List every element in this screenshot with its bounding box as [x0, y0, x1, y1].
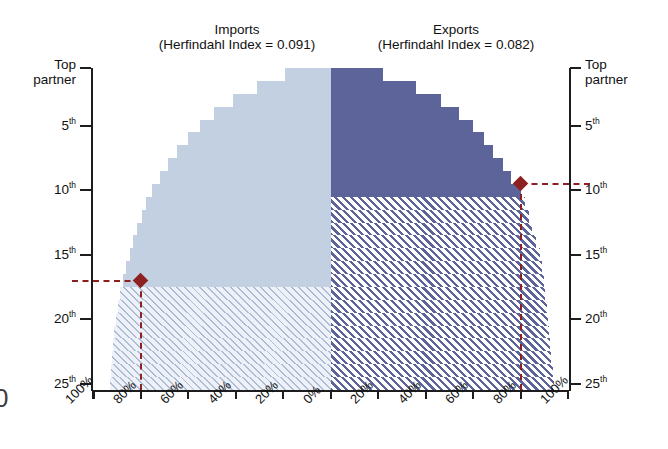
x-axis-tick: [567, 390, 569, 399]
bar-step: [177, 145, 330, 158]
bar-step: [133, 235, 330, 248]
y-axis-tick-label-right: 15th: [585, 246, 607, 262]
bar-step: [331, 235, 536, 248]
chart-root: Imports (Herfindahl Index = 0.091) Expor…: [0, 0, 668, 449]
bar-step: [331, 261, 542, 274]
y-axis-tick-label-left: 15th: [54, 246, 76, 262]
x-axis-tick: [520, 390, 522, 399]
bar-step: [331, 68, 383, 81]
bar-step: [331, 171, 512, 184]
y-axis-tick-left: [80, 189, 91, 191]
bar-step: [331, 184, 521, 197]
bar-step: [331, 81, 417, 94]
y-axis-tick-label-left: 20th: [54, 310, 76, 326]
bar-step: [331, 287, 546, 300]
bar-step: [188, 132, 331, 145]
bar-step: [233, 94, 330, 107]
x-axis-tick: [377, 390, 379, 399]
bar-step: [331, 223, 533, 236]
exports-series-area: [331, 68, 569, 390]
bar-step: [152, 184, 330, 197]
y-axis-right-line: [569, 68, 571, 391]
bar-step: [331, 248, 540, 261]
y-axis-tick-label-right: 25th: [585, 375, 607, 391]
bar-step: [331, 274, 545, 287]
marker-guide-horizontal: [72, 280, 141, 282]
bar-step: [137, 223, 331, 236]
bar-step: [214, 107, 330, 120]
y-axis-tick-label-right: 5th: [585, 117, 600, 133]
y-axis-tick-label-left: 25th: [54, 375, 76, 391]
y-axis-left-line: [91, 68, 93, 391]
bar-step: [142, 210, 331, 223]
x-axis-tick: [92, 390, 94, 399]
y-axis-tick-left: [80, 318, 91, 320]
bar-step: [116, 313, 331, 326]
y-axis-tick-label-right: 20th: [585, 310, 607, 326]
y-axis-tick-right: [570, 383, 581, 385]
y-axis-tick-left: [80, 125, 91, 127]
bar-step: [331, 313, 548, 326]
bar-step: [118, 300, 331, 313]
bar-step: [130, 248, 331, 261]
bar-step: [200, 120, 331, 133]
bar-step: [146, 197, 330, 210]
marker-guide-vertical: [520, 184, 522, 390]
bar-step: [126, 261, 330, 274]
y-axis-tick-right: [570, 189, 581, 191]
bar-step: [331, 132, 484, 145]
y-axis-tick-label-left: 10th: [54, 181, 76, 197]
bar-step: [168, 158, 331, 171]
y-axis-tick-right: [570, 125, 581, 127]
bar-step: [331, 158, 503, 171]
bar-step: [120, 287, 330, 300]
y-axis-tick-label-left: Toppartner: [33, 58, 76, 88]
bar-step: [331, 107, 459, 120]
bar-step: [285, 68, 330, 81]
imports-heading: Imports (Herfindahl Index = 0.091): [112, 22, 362, 52]
bar-step: [123, 274, 331, 287]
y-axis-tick-label-left: 5th: [61, 117, 76, 133]
y-axis-tick-left: [80, 254, 91, 256]
x-axis-tick: [140, 390, 142, 399]
x-axis-tick: [472, 390, 474, 399]
top-caption-fragment: [0, 0, 668, 5]
y-axis-tick-label-right: Toppartner: [585, 58, 628, 88]
bar-step: [331, 338, 551, 351]
x-axis-tick: [330, 390, 332, 399]
bar-step: [331, 94, 441, 107]
y-axis-tick-right: [570, 67, 581, 69]
bar-step: [331, 120, 474, 133]
bar-step: [331, 197, 526, 210]
bar-step: [111, 364, 331, 377]
bar-step: [331, 145, 494, 158]
bar-step: [331, 326, 550, 339]
edge-glyph-fragment: 0: [0, 383, 8, 414]
imports-subtitle: (Herfindahl Index = 0.091): [112, 37, 362, 52]
y-axis-tick-right: [570, 318, 581, 320]
exports-heading: Exports (Herfindahl Index = 0.082): [330, 22, 582, 52]
imports-title: Imports: [112, 22, 362, 37]
bar-step: [113, 338, 330, 351]
bar-step: [331, 351, 552, 364]
bar-step: [331, 210, 529, 223]
bar-step: [114, 326, 330, 339]
bar-step: [257, 81, 331, 94]
x-axis-tick: [425, 390, 427, 399]
bar-step: [331, 300, 547, 313]
exports-title: Exports: [330, 22, 582, 37]
plot-area: [93, 68, 568, 390]
exports-subtitle: (Herfindahl Index = 0.082): [330, 37, 582, 52]
x-axis-tick: [282, 390, 284, 399]
imports-series-area: [93, 68, 331, 390]
y-axis-tick-right: [570, 254, 581, 256]
bar-step: [160, 171, 331, 184]
x-axis-tick: [187, 390, 189, 399]
y-axis-tick-left: [80, 67, 91, 69]
x-axis-tick: [235, 390, 237, 399]
marker-guide-vertical: [140, 281, 142, 390]
bar-step: [112, 351, 331, 364]
marker-guide-horizontal: [521, 183, 591, 185]
